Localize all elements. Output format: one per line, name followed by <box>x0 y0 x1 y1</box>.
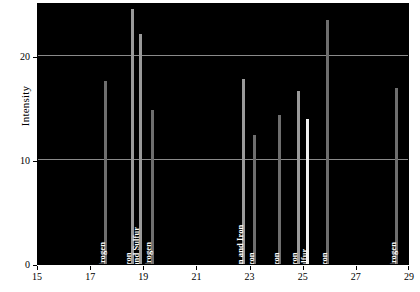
peak-bar: Cobalt and Sulfur <box>139 34 142 264</box>
peak-label: Hydrogen <box>97 241 106 265</box>
y-tick-label: 0 <box>0 260 30 270</box>
x-tick-23 <box>250 266 251 270</box>
peak-bar: Hydrogen <box>151 110 154 264</box>
peak-bar: Iron <box>253 135 256 264</box>
peak-label: Cobalt and Sulfur <box>132 226 141 265</box>
x-tick-27 <box>356 266 357 270</box>
peak-bar: Iron <box>131 9 134 264</box>
x-tick-label: 29 <box>394 272 420 282</box>
peak-bar: Sulfur <box>306 119 309 264</box>
peak-label: Hydrogen and Iron <box>235 224 244 265</box>
y-axis-title: Intensity <box>19 56 31 156</box>
x-tick-label: 17 <box>75 272 105 282</box>
peak-label: Iron <box>290 252 299 265</box>
y-tick-label: 10 <box>0 156 30 166</box>
x-tick-19 <box>143 266 144 270</box>
x-tick-label: 27 <box>341 272 371 282</box>
spectrum-chart-figure: Intensity 01020 1517192123252729 Hydroge… <box>0 0 420 292</box>
x-tick-29 <box>408 266 409 270</box>
x-tick-17 <box>90 266 91 270</box>
plot-area: HydrogenIronCobalt and SulfurHydrogenHyd… <box>37 3 409 265</box>
x-tick-25 <box>303 266 304 270</box>
peak-label: Hydrogen <box>144 241 153 265</box>
peak-label: Hydrogen <box>388 241 397 265</box>
x-tick-21 <box>196 266 197 270</box>
peak-bar: Iron <box>326 20 329 264</box>
x-tick-label: 15 <box>22 272 52 282</box>
peak-label: Iron <box>246 252 255 265</box>
peak-bar: Iron <box>297 91 300 264</box>
x-tick-label: 23 <box>235 272 265 282</box>
x-tick-label: 25 <box>288 272 318 282</box>
x-tick-15 <box>37 266 38 270</box>
gridline-y-10 <box>38 159 408 160</box>
x-tick-label: 21 <box>181 272 211 282</box>
peak-label: Iron <box>319 252 328 265</box>
gridline-y-20 <box>38 55 408 56</box>
peak-label: Iron <box>271 252 280 265</box>
y-tick-label: 20 <box>0 52 30 62</box>
peak-bar: Hydrogen and Iron <box>242 79 245 264</box>
x-tick-label: 19 <box>128 272 158 282</box>
peak-label: Sulfur <box>299 248 308 265</box>
peak-bar: Hydrogen <box>104 81 107 264</box>
peak-bar: Iron <box>278 115 281 264</box>
peak-bar: Hydrogen <box>395 88 398 264</box>
